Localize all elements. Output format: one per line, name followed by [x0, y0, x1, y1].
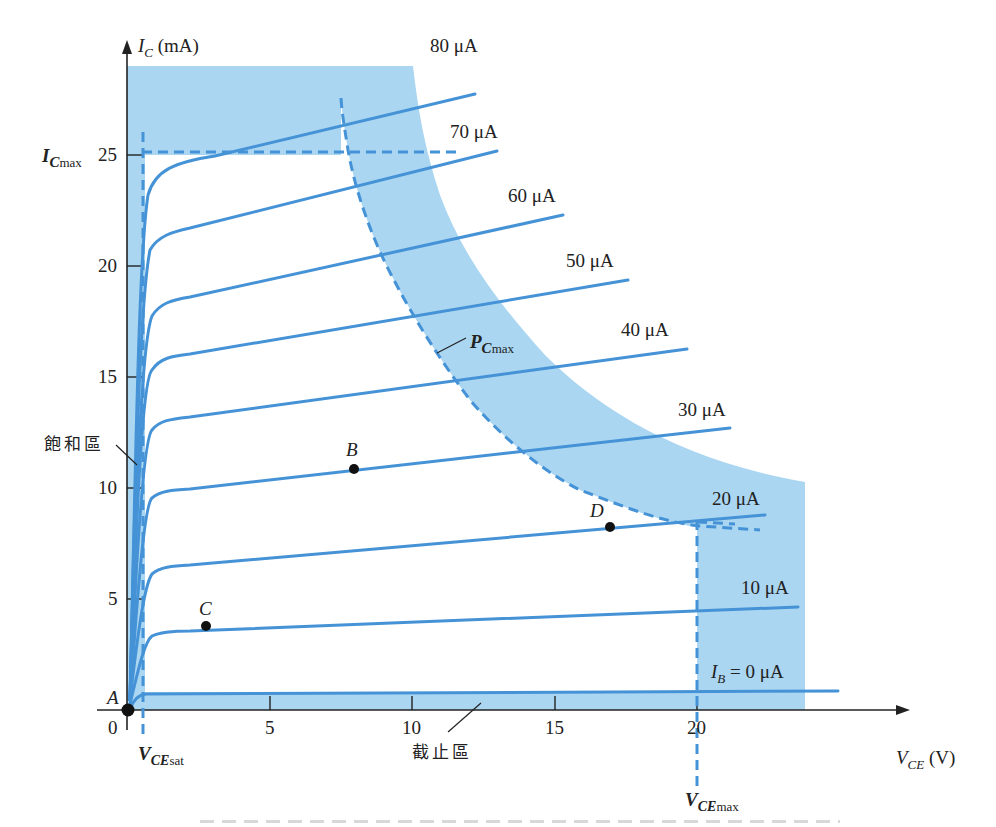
- chart-canvas: [0, 0, 996, 827]
- y-axis-arrow-icon: [122, 40, 132, 54]
- shaded-regions: [127, 66, 805, 710]
- curve-label-ib-0: IB = 0 μA: [711, 662, 784, 685]
- ic-max-label: ICmax: [42, 146, 82, 170]
- point-c-marker: [201, 621, 211, 631]
- y-tick-5: 5: [108, 589, 118, 608]
- y-tick-25: 25: [98, 145, 117, 164]
- point-b-label: B: [346, 440, 358, 459]
- x-axis-arrow-icon: [896, 705, 910, 715]
- y-tick-10: 10: [98, 478, 117, 497]
- point-a-marker: [122, 704, 135, 717]
- point-d-marker: [605, 522, 615, 532]
- pc-max-label: PCmax: [470, 332, 514, 356]
- x-tick-20: 20: [687, 718, 706, 737]
- curve-label-ib-60: 60 μA: [508, 186, 556, 205]
- curve-label-ib-20: 20 μA: [712, 489, 760, 508]
- vce-max-label: VCEmax: [685, 790, 739, 814]
- curve-label-ib-30: 30 μA: [678, 400, 726, 419]
- point-d-label: D: [590, 501, 604, 520]
- curve-ib-40: [130, 349, 687, 700]
- bjt-output-characteristics-figure: IC (mA) VCE (V) 25 20 15 10 5 0 5 10 15 …: [0, 0, 996, 827]
- saturation-region-label: 飽和區: [44, 436, 104, 453]
- cutoff-region-label: 截止區: [412, 744, 472, 761]
- x-tick-10: 10: [402, 718, 421, 737]
- pc-max-shaded-band: [127, 66, 805, 710]
- point-b-marker: [349, 464, 359, 474]
- curve-label-ib-50: 50 μA: [566, 251, 614, 270]
- curve-label-ib-80: 80 μA: [430, 36, 478, 55]
- point-c-label: C: [199, 599, 212, 618]
- curve-label-ib-40: 40 μA: [621, 320, 669, 339]
- curve-ib-50: [130, 280, 628, 700]
- x-tick-15: 15: [545, 718, 564, 737]
- leader-lines: [116, 338, 481, 732]
- x-axis-label: VCE (V): [896, 748, 955, 771]
- vce-max-dashed-stub: [697, 522, 735, 524]
- curve-label-ib-10: 10 μA: [741, 578, 789, 597]
- curve-label-ib-70: 70 μA: [450, 122, 498, 141]
- y-axis-label: IC (mA): [138, 36, 199, 59]
- vce-sat-label: VCEsat: [138, 744, 184, 768]
- figure-caption-cropped: [200, 814, 840, 827]
- point-a-label: A: [107, 688, 119, 707]
- operating-points: [122, 464, 616, 717]
- x-tick-0: 0: [108, 718, 118, 737]
- x-tick-5: 5: [265, 718, 275, 737]
- y-tick-20: 20: [98, 256, 117, 275]
- y-tick-15: 15: [98, 367, 117, 386]
- curve-ib-20: [130, 515, 765, 700]
